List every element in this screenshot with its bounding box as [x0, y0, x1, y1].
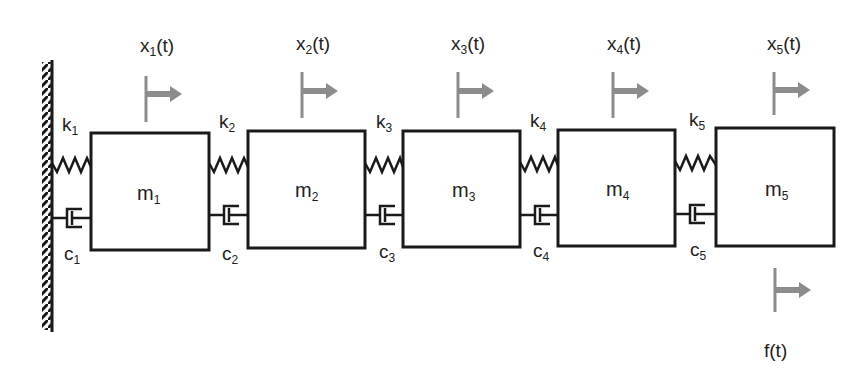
label-text: x — [767, 33, 777, 54]
label-sub: 5 — [699, 119, 706, 133]
label-x5: x5(t) — [767, 34, 801, 56]
diagram-canvas — [0, 0, 866, 385]
label-k4: k4 — [530, 111, 546, 133]
label-sub: 4 — [540, 120, 547, 134]
label-text: c — [533, 240, 543, 261]
arrow-x5-icon — [774, 72, 810, 115]
label-text: x — [296, 33, 306, 54]
label-c5: c5 — [690, 240, 706, 262]
label-c1: c1 — [64, 244, 80, 266]
spring-3 — [365, 158, 403, 172]
wall — [42, 60, 52, 332]
label-k1: k1 — [62, 115, 78, 137]
label-sub: 1 — [72, 124, 79, 138]
label-text: k — [62, 114, 72, 135]
label-x1: x1(t) — [140, 36, 174, 58]
label-sub: 1 — [154, 193, 161, 207]
arrow-x3-icon — [458, 72, 494, 118]
spring-2 — [209, 158, 248, 172]
label-sub: 2 — [232, 253, 239, 267]
label-c2: c2 — [222, 244, 238, 266]
label-text: k — [530, 110, 540, 131]
label-text: k — [219, 111, 229, 132]
label-arg: (t) — [467, 33, 485, 54]
label-c3: c3 — [379, 242, 395, 264]
label-sub: 4 — [623, 189, 630, 203]
label-text: m — [765, 178, 782, 200]
label-x3: x3(t) — [451, 34, 485, 56]
label-text: c — [64, 243, 74, 264]
spring-4 — [520, 157, 558, 171]
damper-5 — [675, 205, 716, 223]
label-sub: 5 — [782, 189, 789, 203]
label-sub: 3 — [386, 121, 393, 135]
label-x2: x2(t) — [296, 34, 330, 56]
spring-5 — [675, 156, 716, 170]
displacement-arrows — [146, 72, 811, 312]
label-text: c — [222, 243, 232, 264]
damper-1 — [52, 209, 91, 227]
arrow-x2-icon — [302, 72, 338, 118]
arrow-force-icon — [775, 268, 811, 312]
label-text: m — [137, 182, 154, 204]
label-text: c — [379, 241, 389, 262]
label-text: x — [140, 35, 150, 56]
label-text: m — [606, 178, 623, 200]
arrow-x1-icon — [146, 76, 182, 122]
label-force: f(t) — [764, 341, 787, 360]
label-text: x — [451, 33, 461, 54]
label-m4: m4 — [606, 179, 629, 202]
label-sub: 2 — [229, 121, 236, 135]
label-m3: m3 — [452, 180, 475, 203]
label-text: x — [607, 33, 617, 54]
label-text: m — [295, 179, 312, 201]
label-m1: m1 — [137, 183, 160, 206]
label-k2: k2 — [219, 112, 235, 134]
damper-3 — [365, 206, 403, 224]
label-c4: c4 — [533, 241, 549, 263]
springs — [52, 156, 716, 172]
damper-4 — [520, 206, 558, 224]
label-text: m — [452, 179, 469, 201]
label-m2: m2 — [295, 180, 318, 203]
label-arg: (t) — [312, 33, 330, 54]
label-k3: k3 — [376, 112, 392, 134]
damper-2 — [209, 206, 248, 224]
label-sub: 2 — [312, 190, 319, 204]
label-sub: 3 — [389, 251, 396, 265]
label-arg: (t) — [623, 33, 641, 54]
label-text: c — [690, 239, 700, 260]
label-text: k — [376, 111, 386, 132]
label-arg: (t) — [783, 33, 801, 54]
label-k5: k5 — [689, 110, 705, 132]
arrow-x4-icon — [613, 72, 649, 118]
label-sub: 5 — [700, 249, 707, 263]
dampers — [52, 205, 716, 227]
label-m5: m5 — [765, 179, 788, 202]
label-text: k — [689, 109, 699, 130]
label-sub: 1 — [74, 253, 81, 267]
spring-1 — [52, 158, 91, 172]
label-sub: 3 — [469, 190, 476, 204]
label-x4: x4(t) — [607, 34, 641, 56]
label-arg: (t) — [156, 35, 174, 56]
label-sub: 4 — [543, 250, 550, 264]
